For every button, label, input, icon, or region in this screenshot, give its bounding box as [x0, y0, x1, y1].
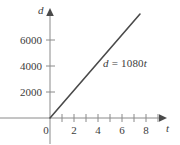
- equation-lhs: d: [103, 57, 109, 69]
- x-axis-label: t: [166, 123, 169, 134]
- x-tick-label-6: 6: [114, 125, 130, 136]
- y-axis-arrowhead: [46, 8, 54, 16]
- x-tick-label-8: 8: [138, 125, 154, 136]
- plot-area: [0, 0, 180, 145]
- x-tick-label-4: 4: [90, 125, 106, 136]
- y-tick-label-2000: 2000: [8, 87, 42, 98]
- x-tick-label-0: 0: [38, 125, 54, 136]
- y-tick-label-4000: 4000: [8, 61, 42, 72]
- equation-variable: t: [144, 57, 147, 69]
- equation-coefficient: 1080: [121, 57, 144, 69]
- line-graph-figure: d t 6000 4000 2000 0 2 4 6 8 d = 1080t: [0, 0, 180, 145]
- x-axis-arrowhead: [159, 114, 167, 122]
- equation-annotation: d = 1080t: [103, 58, 147, 69]
- y-tick-label-6000: 6000: [8, 35, 42, 46]
- x-tick-label-2: 2: [66, 125, 82, 136]
- y-axis-label: d: [38, 5, 44, 16]
